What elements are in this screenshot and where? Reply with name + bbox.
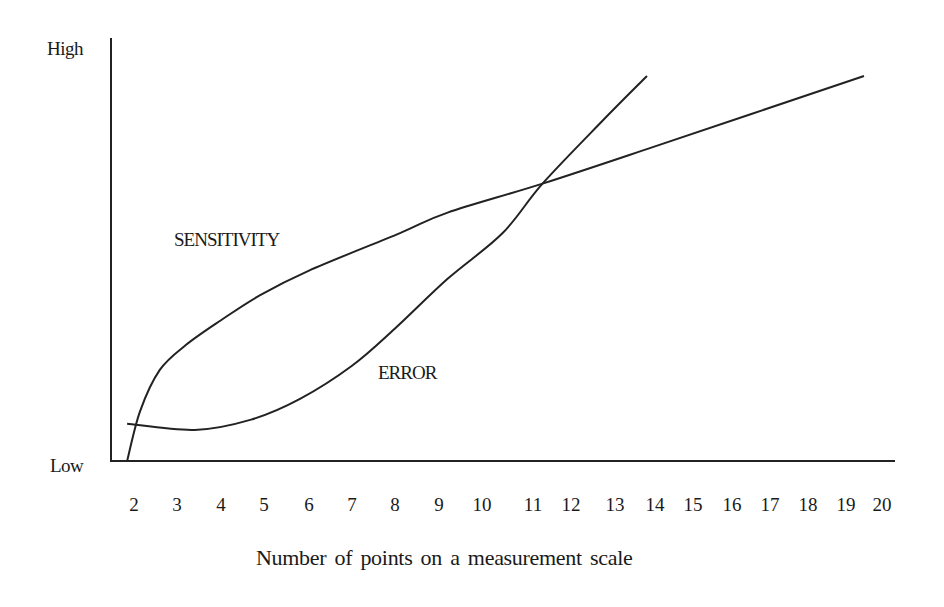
x-tick-label: 4 [216,494,226,516]
x-axis-title: Number of points on a measurement scale [256,545,633,571]
y-axis-low-label: Low [50,455,83,477]
x-tick-label: 6 [304,494,314,516]
x-tick-label: 10 [473,494,492,516]
x-tick-label: 9 [434,494,444,516]
x-tick-label: 18 [799,494,818,516]
x-tick-label: 17 [761,494,780,516]
x-tick-label: 11 [524,494,542,516]
x-tick-label: 7 [347,494,357,516]
x-tick-label: 3 [172,494,182,516]
x-tick-label: 2 [129,494,139,516]
x-tick-label: 20 [873,494,892,516]
x-tick-label: 5 [259,494,269,516]
x-tick-label: 8 [390,494,400,516]
x-tick-label: 19 [837,494,856,516]
sensitivity-curve [127,76,864,461]
sensitivity-label: SENSITIVITY [174,229,279,251]
x-tick-label: 13 [606,494,625,516]
x-tick-label: 12 [562,494,581,516]
error-label: ERROR [378,362,436,384]
x-tick-label: 16 [723,494,742,516]
x-tick-label: 15 [684,494,703,516]
x-tick-label: 14 [646,494,665,516]
y-axis-high-label: High [47,38,83,60]
